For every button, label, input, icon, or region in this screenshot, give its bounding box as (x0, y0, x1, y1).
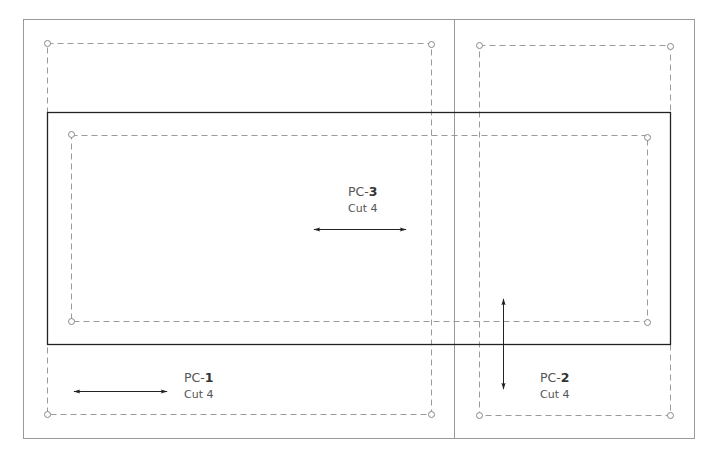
piece-number: 1 (205, 370, 214, 385)
piece-prefix: PC- (540, 370, 561, 385)
corner-marker-icon (668, 44, 674, 50)
cut-count: Cut 4 (540, 387, 569, 402)
piece-label-pc3: PC-3 Cut 4 (348, 184, 377, 216)
cut-count: Cut 4 (184, 387, 213, 402)
corner-marker-icon (429, 42, 435, 48)
piece-number: 3 (369, 184, 378, 199)
pattern-layout (0, 0, 726, 455)
corner-marker-icon (69, 319, 75, 325)
corner-marker-icon (645, 320, 651, 326)
corner-marker-icon (69, 132, 75, 138)
corner-marker-icon (45, 41, 51, 47)
piece-3-outline (69, 132, 651, 326)
piece-number: 2 (561, 370, 570, 385)
piece-3-solid-outline (48, 113, 671, 345)
corner-marker-icon (477, 413, 483, 419)
corner-marker-icon (429, 412, 435, 418)
corner-marker-icon (668, 413, 674, 419)
corner-marker-icon (645, 135, 651, 141)
piece-prefix: PC- (348, 184, 369, 199)
corner-marker-icon (477, 43, 483, 49)
cut-count: Cut 4 (348, 201, 377, 216)
piece-prefix: PC- (184, 370, 205, 385)
piece-label-pc1: PC-1 Cut 4 (184, 370, 213, 402)
piece-label-pc2: PC-2 Cut 4 (540, 370, 569, 402)
piece-2-outline (477, 43, 674, 419)
corner-marker-icon (45, 412, 51, 418)
